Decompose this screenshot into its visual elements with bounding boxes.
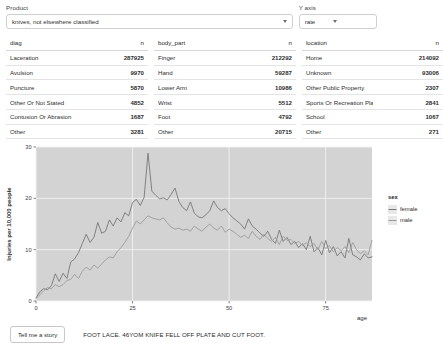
cell-n: 59287 [225, 65, 296, 80]
tell-me-a-story-button[interactable]: Tell me a story [10, 326, 65, 343]
column-header-label: diag [6, 36, 77, 50]
x-tick-label: 50 [226, 305, 232, 311]
table-row: Finger212292 [154, 50, 296, 65]
table-row: School1067 [302, 109, 443, 124]
y-tick-label: 30 [25, 145, 31, 151]
column-header-n: n [77, 36, 148, 50]
cell-n: 9970 [77, 65, 148, 80]
x-tick-label: 25 [129, 305, 135, 311]
table-row: Foot4792 [154, 109, 296, 124]
cell-n: 20715 [225, 124, 296, 139]
cell-label: Home [302, 50, 373, 65]
table-row: Other271 [302, 124, 443, 139]
cell-label: Foot [154, 109, 225, 124]
cell-label: Laceration [6, 50, 77, 65]
x-tick-label: 75 [323, 305, 329, 311]
y-tick-label: 20 [25, 196, 31, 202]
x-axis-title: age [357, 315, 368, 321]
cell-label: Puncture [6, 80, 77, 95]
cell-n: 212292 [225, 50, 296, 65]
cell-label: Hand [154, 65, 225, 80]
table-row: Laceration287925 [6, 50, 148, 65]
table-row: Avulsion9970 [6, 65, 148, 80]
yaxis-select-value: rate [305, 18, 316, 25]
cell-label: Unknown [302, 65, 373, 80]
summary-tables: diag n Laceration287925 Avulsion9970 Pun… [0, 29, 443, 139]
chevron-down-icon [333, 20, 337, 23]
chevron-down-icon [283, 20, 287, 23]
cell-label: School [302, 109, 373, 124]
chart-canvas: 01020300255075ageInjuries per 10,000 peo… [0, 141, 443, 331]
yaxis-label: Y axis [299, 4, 437, 11]
column-header-label: body_part [154, 36, 225, 50]
column-header-n: n [373, 36, 443, 50]
table-row: Home214092 [302, 50, 443, 65]
yaxis-control: Y axis rate [299, 4, 437, 29]
table-location: location n Home214092 Unknown93006 Other… [302, 36, 443, 139]
table-header-row: body_part n [154, 36, 296, 50]
product-select-value: knives, not elsewhere classified [12, 18, 279, 25]
table-row: Hand59287 [154, 65, 296, 80]
cell-label: Other [6, 124, 77, 139]
cell-n: 5512 [225, 95, 296, 110]
cell-n: 3281 [77, 124, 148, 139]
table-header-row: location n [302, 36, 443, 50]
table-row: Other3281 [6, 124, 148, 139]
cell-label: Finger [154, 50, 225, 65]
table-row: Puncture5870 [6, 80, 148, 95]
cell-label: Other [154, 124, 225, 139]
table-row: Wrist5512 [154, 95, 296, 110]
y-tick-label: 10 [25, 247, 31, 253]
cell-n: 1067 [373, 109, 443, 124]
controls-bar: Product knives, not elsewhere classified… [0, 0, 443, 29]
table-header-row: diag n [6, 36, 148, 50]
cell-n: 287925 [77, 50, 148, 65]
cell-label: Other [302, 124, 373, 139]
table-body-part: body_part n Finger212292 Hand59287 Lower… [154, 36, 296, 139]
cell-n: 5870 [77, 80, 148, 95]
cell-label: Lower Arm [154, 80, 225, 95]
injury-rate-chart: 01020300255075ageInjuries per 10,000 peo… [0, 141, 443, 331]
legend-label-female: female [400, 207, 417, 213]
cell-n: 2841 [373, 95, 443, 110]
cell-n: 10986 [225, 80, 296, 95]
footer-bar: Tell me a story FOOT LACE. 46YOM KNIFE F… [0, 326, 443, 343]
legend-title: sex [388, 194, 398, 200]
product-control: Product knives, not elsewhere classified [6, 4, 293, 29]
chart-plot-panel [36, 147, 372, 301]
table-row: Sports Or Recreation Place2841 [302, 95, 443, 110]
table-row: Other Or Not Stated4852 [6, 95, 148, 110]
product-label: Product [6, 4, 293, 11]
cell-label: Contusion Or Abrasion [6, 109, 77, 124]
y-axis-title: Injuries per 10,000 people [6, 187, 12, 261]
x-tick-label: 0 [34, 305, 37, 311]
yaxis-select[interactable]: rate [299, 14, 377, 29]
table-row: Other Public Property2307 [302, 80, 443, 95]
product-select[interactable]: knives, not elsewhere classified [6, 14, 293, 29]
column-header-n: n [225, 36, 296, 50]
table-row: Contusion Or Abrasion1687 [6, 109, 148, 124]
table-row: Other20715 [154, 124, 296, 139]
legend-label-male: male [400, 218, 413, 224]
cell-label: Sports Or Recreation Place [302, 95, 373, 110]
table-row: Lower Arm10986 [154, 80, 296, 95]
cell-n: 2307 [373, 80, 443, 95]
cell-label: Avulsion [6, 65, 77, 80]
cell-n: 214092 [373, 50, 443, 65]
cell-n: 4852 [77, 95, 148, 110]
table-diag: diag n Laceration287925 Avulsion9970 Pun… [6, 36, 148, 139]
story-narrative-text: FOOT LACE. 46YOM KNIFE FELL OFF PLATE AN… [83, 331, 265, 338]
y-tick-label: 0 [28, 299, 31, 305]
cell-n: 1687 [77, 109, 148, 124]
column-header-label: location [302, 36, 373, 50]
cell-label: Wrist [154, 95, 225, 110]
table-row: Unknown93006 [302, 65, 443, 80]
cell-label: Other Or Not Stated [6, 95, 77, 110]
cell-n: 93006 [373, 65, 443, 80]
cell-n: 271 [373, 124, 443, 139]
cell-n: 4792 [225, 109, 296, 124]
cell-label: Other Public Property [302, 80, 373, 95]
